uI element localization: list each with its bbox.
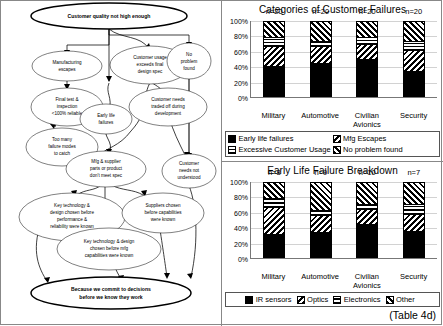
bar-column: n=7	[391, 182, 438, 258]
bar-segment	[404, 41, 424, 51]
bar-segment	[264, 207, 284, 234]
bar-segment	[311, 46, 331, 62]
svg-text:problem: problem	[181, 59, 198, 64]
x-axis-labels: MilitaryAutomotiveCivilianAvionicsSecuri…	[250, 111, 437, 129]
svg-text:before we know they work: before we know they work	[79, 294, 143, 300]
svg-text:development: development	[155, 111, 182, 116]
bar-group: n=8n=9n=10n=7	[251, 182, 437, 258]
legend-item[interactable]: IR sensors	[245, 294, 291, 305]
chart-legend: Early life failuresMfg EscapesExcessive …	[225, 131, 440, 157]
legend-swatch-icon	[386, 296, 394, 304]
plot-area: n=8n=9n=10n=7	[250, 182, 437, 259]
legend-item[interactable]: Early life failures	[228, 133, 333, 144]
bar-column: n=9	[298, 182, 345, 258]
chart-categories-of-customer-failures: Categories of Customer Failures 0%20%40%…	[222, 1, 443, 162]
y-tick-label: 40%	[234, 64, 248, 71]
sample-size-label: n=9	[298, 168, 345, 177]
stacked-bar[interactable]	[263, 182, 285, 258]
bar-column: n=20	[298, 21, 345, 97]
bar-column: n=20	[251, 21, 298, 97]
bar-segment	[404, 71, 424, 96]
legend-label: Electronics	[344, 294, 381, 305]
legend-item[interactable]: Electronics	[333, 294, 380, 305]
bar-segment	[264, 66, 284, 96]
sample-size-label: n=20	[344, 7, 391, 16]
cause-map-svg: Customer quality not high enough Manufac…	[1, 1, 222, 326]
y-axis-labels: 0%20%40%60%80%100%	[224, 176, 250, 272]
bar-column: n=20	[344, 21, 391, 97]
legend-item[interactable]: No problem found	[333, 144, 438, 155]
stacked-bar[interactable]	[263, 21, 285, 97]
svg-text:<100% reliable: <100% reliable	[52, 111, 83, 116]
stacked-bar[interactable]	[356, 21, 378, 97]
node-because-we-commit[interactable]: Because we commit to decisions before we…	[31, 277, 191, 309]
legend-swatch-icon	[333, 146, 341, 154]
bar-segment	[404, 50, 424, 71]
x-tick-label: Automotive	[297, 272, 344, 290]
node-customer-needs-traded-off[interactable]: Customer needs traded off during develop…	[129, 88, 207, 126]
svg-text:Customer: Customer	[179, 161, 199, 166]
x-tick-label: CivilianAvionics	[344, 111, 391, 129]
y-tick-label: 100%	[230, 18, 248, 25]
bar-segment	[264, 234, 284, 257]
svg-text:chosen before mfg: chosen before mfg	[90, 246, 128, 251]
node-key-technology-mfg[interactable]: Key technology & design chosen before mf…	[57, 228, 161, 270]
svg-text:No: No	[186, 52, 192, 57]
chart-early-life-failure-breakdown: Early Life Failure Breakdown 0%20%40%60%…	[222, 162, 443, 324]
y-tick-label: 20%	[234, 240, 248, 247]
legend-item[interactable]: Mfg Escapes	[333, 133, 438, 144]
sample-size-label: n=7	[391, 168, 438, 177]
legend-item[interactable]: Other	[386, 294, 415, 305]
legend-swatch-icon	[228, 135, 236, 143]
sample-size-label: n=20	[251, 7, 298, 16]
chart-legend: IR sensorsOpticsElectronicsOther	[225, 292, 440, 307]
bar-segment	[404, 204, 424, 214]
legend-item[interactable]: Optics	[297, 294, 329, 305]
node-mfg-supplier-parts[interactable]: Mfg & supplier parts or product don't me…	[66, 151, 146, 187]
bar-group: n=20n=20n=20n=20	[251, 21, 437, 97]
bar-segment	[264, 37, 284, 47]
bar-segment	[357, 209, 377, 224]
bar-segment	[311, 63, 331, 96]
node-suppliers-chosen[interactable]: Suppliers chosen before capabilities wer…	[122, 193, 204, 233]
x-axis-labels: MilitaryAutomotiveCivilianAvionicsSecuri…	[250, 272, 437, 290]
x-tick-label: Automotive	[297, 111, 344, 129]
svg-text:Early life: Early life	[97, 113, 115, 118]
node-no-problem-found[interactable]: No problem found	[167, 43, 211, 79]
legend-item[interactable]: Excessive Customer Usage	[228, 144, 333, 155]
svg-text:Customer quality not high enou: Customer quality not high enough	[68, 13, 151, 19]
node-customer-needs-not-understood[interactable]: Customer needs not understood	[162, 154, 216, 188]
stacked-bar[interactable]	[310, 21, 332, 97]
y-tick-label: 0%	[238, 95, 248, 102]
legend-label: Optics	[307, 294, 328, 305]
charts-column: Categories of Customer Failures 0%20%40%…	[222, 1, 443, 326]
svg-text:understood: understood	[178, 175, 201, 180]
sample-size-label: n=20	[298, 7, 345, 16]
node-manufacturing-escapes[interactable]: Manufacturing escapes	[32, 51, 102, 81]
y-tick-label: 80%	[234, 194, 248, 201]
x-tick-label: CivilianAvionics	[344, 272, 391, 290]
svg-text:escapes: escapes	[58, 67, 76, 72]
stacked-bar[interactable]	[403, 21, 425, 97]
y-tick-label: 40%	[234, 225, 248, 232]
bar-segment	[311, 232, 331, 257]
svg-text:Mfg & supplier: Mfg & supplier	[91, 159, 121, 164]
stacked-bar[interactable]	[310, 182, 332, 258]
stacked-bar[interactable]	[356, 182, 378, 258]
x-tick-label: Military	[250, 272, 297, 290]
svg-text:design spec: design spec	[138, 69, 163, 74]
svg-text:design chosen before: design chosen before	[50, 210, 94, 215]
bar-segment	[264, 46, 284, 66]
node-early-life-failures[interactable]: Early life failures	[80, 104, 132, 134]
bar-segment	[357, 22, 377, 37]
y-tick-label: 80%	[234, 33, 248, 40]
svg-text:failure modes: failure modes	[48, 144, 76, 149]
node-root[interactable]: Customer quality not high enough	[31, 3, 187, 29]
stacked-bar[interactable]	[403, 182, 425, 258]
bar-column: n=20	[391, 21, 438, 97]
svg-text:found: found	[183, 66, 195, 71]
bar-segment	[357, 37, 377, 44]
bar-segment	[357, 44, 377, 59]
svg-text:Too many: Too many	[52, 137, 73, 142]
bar-segment	[404, 183, 424, 204]
